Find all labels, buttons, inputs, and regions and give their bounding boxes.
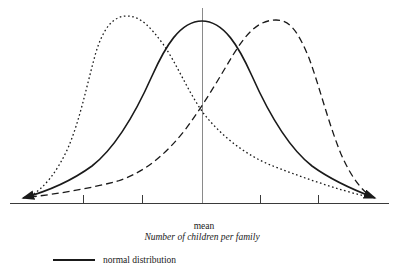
dashed-distribution-curve — [30, 20, 372, 197]
distribution-figure: mean Number of children per family norma… — [0, 0, 396, 269]
x-axis-title: Number of children per family — [144, 232, 259, 242]
legend-solid-line-swatch — [53, 259, 95, 261]
legend-label-normal-distribution: normal distribution — [103, 255, 176, 265]
legend: normal distribution — [53, 255, 176, 265]
mean-label: mean — [194, 221, 215, 231]
x-axis-ticks — [84, 195, 319, 203]
